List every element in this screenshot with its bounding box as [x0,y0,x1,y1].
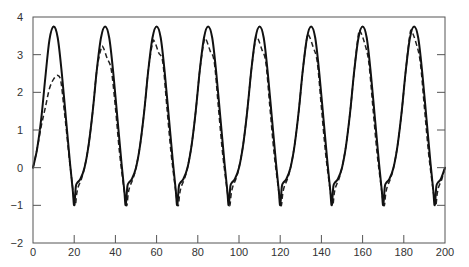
line-chart: 020406080100120140160180200 −2−101234 [0,0,469,267]
x-tick-label: 60 [150,246,162,258]
x-tick-label: 0 [30,246,36,258]
y-axis: −2−101234 [10,11,445,249]
x-tick-label: 140 [312,246,330,258]
dashed-series-line [33,30,445,206]
y-tick-label: 3 [17,49,23,61]
plot-frame [33,17,445,243]
solid-series-line [33,26,445,205]
x-tick-label: 80 [192,246,204,258]
x-tick-label: 160 [353,246,371,258]
x-tick-label: 40 [109,246,121,258]
y-tick-label: −2 [10,237,23,249]
x-axis: 020406080100120140160180200 [30,235,454,258]
y-tick-label: −1 [10,199,23,211]
y-tick-label: 0 [17,162,23,174]
x-tick-label: 100 [230,246,248,258]
y-tick-label: 4 [17,11,23,23]
x-tick-label: 200 [436,246,454,258]
x-tick-label: 20 [68,246,80,258]
x-tick-label: 180 [395,246,413,258]
x-tick-label: 120 [271,246,289,258]
y-tick-label: 1 [17,124,23,136]
series-layer [33,26,445,205]
y-tick-label: 2 [17,86,23,98]
